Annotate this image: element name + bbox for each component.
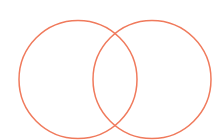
venn-circle-right — [93, 21, 211, 139]
venn-diagram — [0, 0, 213, 140]
venn-diagram-svg — [0, 0, 213, 140]
venn-circle-left — [19, 21, 137, 139]
